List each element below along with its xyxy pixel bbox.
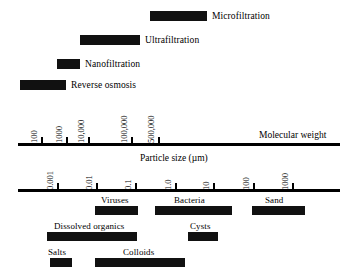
range-bar-colloids xyxy=(95,258,185,267)
particle-size-tick xyxy=(253,183,255,189)
particle-size-tick-label: 0.1 xyxy=(124,179,133,190)
filtration-spectrum-diagram: Microfiltration Ultrafiltration Nanofilt… xyxy=(0,0,349,273)
range-label-viruses: Viruses xyxy=(101,195,129,205)
particle-size-tick xyxy=(57,183,59,189)
range-bar-cysts xyxy=(188,232,218,241)
particle-size-axis-line xyxy=(18,189,340,192)
particle-size-tick-label: 0.01 xyxy=(85,175,94,190)
range-label-bacteria: Bacteria xyxy=(174,195,205,205)
range-bar-viruses xyxy=(95,206,138,215)
range-label-nanofiltration: Nanofiltration xyxy=(85,59,140,69)
molecular-weight-tick-label: 10,000 xyxy=(77,120,86,143)
particle-size-tick xyxy=(96,183,98,189)
molecular-weight-axis-title: Molecular weight xyxy=(259,130,326,140)
range-bar-sand xyxy=(252,206,305,215)
particle-size-tick-label: 1000 xyxy=(281,173,290,190)
particle-size-tick-label: 0.001 xyxy=(46,171,55,190)
range-bar-ultrafiltration xyxy=(80,35,140,45)
particle-size-tick-label: 100 xyxy=(242,177,251,190)
range-label-microfiltration: Microfiltration xyxy=(212,11,270,21)
molecular-weight-tick xyxy=(158,137,160,143)
range-label-ultrafiltration: Ultrafiltration xyxy=(145,35,199,45)
particle-size-tick xyxy=(213,183,215,189)
molecular-weight-axis-line xyxy=(18,143,340,146)
range-label-cysts: Cysts xyxy=(190,221,211,231)
range-label-salts: Salts xyxy=(48,247,66,257)
particle-size-tick-label: 10 xyxy=(202,182,211,191)
range-bar-nanofiltration xyxy=(57,59,80,69)
molecular-weight-tick xyxy=(66,137,68,143)
range-label-reverse-osmosis: Reverse osmosis xyxy=(71,80,136,90)
range-bar-microfiltration xyxy=(150,11,207,21)
particle-size-tick xyxy=(135,183,137,189)
particle-size-axis-title: Particle size (µm) xyxy=(140,153,208,163)
molecular-weight-tick-label: 100,000 xyxy=(120,115,129,143)
particle-size-tick xyxy=(292,183,294,189)
range-bar-dissolved-organics xyxy=(47,232,137,241)
molecular-weight-tick-label: 500,000 xyxy=(147,115,156,143)
particle-size-tick-label: 1.0 xyxy=(164,179,173,190)
particle-size-tick xyxy=(175,183,177,189)
molecular-weight-tick xyxy=(131,137,133,143)
molecular-weight-tick-label: 1000 xyxy=(55,126,64,143)
range-bar-salts xyxy=(50,258,72,267)
range-label-colloids: Colloids xyxy=(123,247,154,257)
range-bar-reverse-osmosis xyxy=(20,80,66,90)
molecular-weight-tick xyxy=(41,137,43,143)
molecular-weight-tick-label: 100 xyxy=(30,130,39,143)
molecular-weight-tick xyxy=(88,137,90,143)
range-bar-bacteria xyxy=(155,206,232,215)
range-label-sand: Sand xyxy=(265,195,283,205)
range-label-dissolved-organics: Dissolved organics xyxy=(54,221,124,231)
